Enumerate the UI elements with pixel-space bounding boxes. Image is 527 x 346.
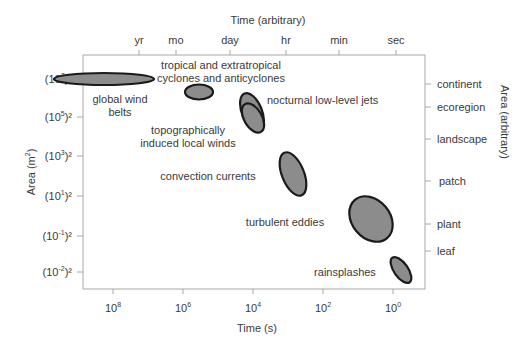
right-tick-label: continent [437, 78, 482, 90]
y-tick-label: (10-1)² [43, 229, 73, 242]
bottom-axis-title: Time (s) [237, 322, 277, 334]
x-tick-label: 106 [175, 301, 191, 314]
ellipse-global-wind-belts [54, 73, 154, 85]
top-tick-label: hr [281, 34, 291, 46]
label-nocturnal-jets: nocturnal low-level jets [267, 94, 379, 106]
top-tick-label: mo [168, 34, 183, 46]
right-tick-label: landscape [437, 133, 487, 145]
label-global-wind-belts: belts [108, 106, 132, 118]
top-tick-label: day [221, 34, 239, 46]
label-cyclones: tropical and extratropical [161, 59, 281, 71]
x-tick-label: 104 [245, 301, 261, 314]
right-ticks [425, 84, 431, 251]
left-axis-title: Area (m2) [24, 149, 37, 196]
label-cyclones: cyclones and anticyclones [157, 72, 285, 84]
bottom-ticks [113, 289, 393, 294]
label-topographic-winds: induced local winds [140, 137, 236, 149]
x-tick-label: 102 [315, 301, 331, 314]
top-tick-label: sec [387, 34, 405, 46]
x-tick-label: 108 [105, 301, 121, 314]
right-axis-title: Area (arbitrary) [499, 85, 511, 159]
label-topographic-winds: topographically [151, 124, 225, 136]
label-turbulent-eddies: turbulent eddies [246, 216, 325, 228]
label-global-wind-belts: global wind [92, 93, 147, 105]
y-tick-label: (10-2)² [43, 265, 73, 278]
y-tick-label: (103)² [45, 149, 72, 162]
x-tick-label: 100 [385, 301, 401, 314]
label-convection-currents: convection currents [160, 170, 256, 182]
right-tick-label: plant [437, 218, 461, 230]
right-tick-label: patch [439, 175, 466, 187]
ellipse-turbulent-eddies [340, 188, 401, 251]
y-tick-label: (101)² [45, 189, 72, 202]
y-tick-label: (105)² [45, 110, 72, 123]
ellipse-convection-currents [274, 149, 312, 200]
left-ticks [77, 79, 83, 272]
right-tick-label: leaf [437, 245, 456, 257]
top-tick-label: yr [134, 34, 144, 46]
ellipse-rainsplashes [387, 254, 416, 287]
top-tick-label: min [330, 34, 348, 46]
ellipse-cyclones [185, 85, 213, 100]
top-axis-title: Time (arbitrary) [231, 14, 306, 26]
right-tick-label: ecoregion [437, 101, 485, 113]
chart: yr mo day hr min sec Time (arbitrary) 10… [0, 0, 527, 346]
top-ticks [139, 50, 396, 55]
label-rainsplashes: rainsplashes [314, 266, 376, 278]
